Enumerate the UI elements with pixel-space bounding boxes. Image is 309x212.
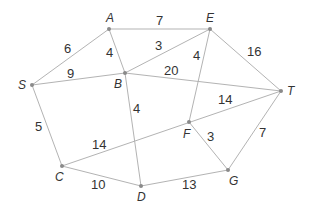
node-e [208, 27, 212, 31]
edge-weight-label: 14 [218, 92, 232, 107]
edge-c-t [62, 91, 281, 166]
node-label: A [105, 11, 114, 25]
edge-weight-label: 16 [247, 44, 261, 59]
edge-weight-label: 5 [35, 119, 42, 134]
edge-weight-label: 7 [156, 13, 163, 28]
node-b [123, 71, 127, 75]
node-label: F [183, 127, 191, 141]
edge-weight-label: 10 [91, 177, 105, 192]
node-label: D [137, 190, 146, 204]
edge-weight-label: 6 [64, 41, 71, 56]
edge-weight-label: 3 [207, 129, 214, 144]
edge-weight-label: 20 [164, 63, 178, 78]
edge-b-t [125, 73, 281, 91]
node-t [279, 89, 283, 93]
graph-diagram: 6743920164514410133714AESBTFCDG [0, 0, 309, 212]
node-g [226, 168, 230, 172]
node-label: E [206, 11, 215, 25]
node-c [60, 164, 64, 168]
node-f [187, 120, 191, 124]
node-label: G [229, 174, 238, 188]
edge-weight-label: 14 [92, 137, 106, 152]
node-label: C [55, 170, 64, 184]
node-label: S [18, 78, 26, 92]
edge-weight-label: 4 [193, 48, 200, 63]
edge-weight-label: 4 [106, 45, 113, 60]
graph-canvas: 6743920164514410133714AESBTFCDG [0, 0, 309, 212]
edge-weight-label: 9 [67, 66, 74, 81]
edge-weight-label: 13 [182, 177, 196, 192]
edge-weight-label: 4 [133, 101, 140, 116]
node-s [30, 83, 34, 87]
edge-e-t [210, 29, 281, 91]
node-label: T [287, 84, 296, 98]
node-a [107, 27, 111, 31]
edge-g-t [228, 91, 281, 170]
edge-weight-label: 3 [155, 38, 162, 53]
node-label: B [114, 77, 122, 91]
edge-e-f [189, 29, 210, 122]
node-d [139, 184, 143, 188]
edge-weight-label: 7 [259, 125, 266, 140]
edge-b-d [125, 73, 141, 186]
